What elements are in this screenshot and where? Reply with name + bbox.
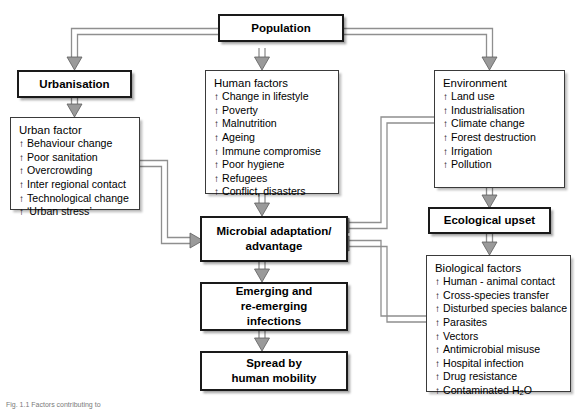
list-item: ↑Behaviour change bbox=[19, 137, 133, 151]
increase-arrow-icon: ↑ bbox=[435, 276, 443, 289]
node-microbial-line2: advantage bbox=[246, 239, 303, 254]
panel-human-factors[interactable]: Human factors ↑Change in lifestyle ↑Pove… bbox=[205, 70, 339, 194]
node-emerging-infections[interactable]: Emerging and re-emerging infections bbox=[200, 282, 348, 331]
increase-arrow-icon: ↑ bbox=[443, 132, 451, 145]
increase-arrow-icon: ↑ bbox=[443, 91, 451, 104]
list-item: ↑Poor sanitation bbox=[19, 151, 133, 165]
list-item: ↑Overcrowding bbox=[19, 164, 133, 178]
list-item: ↑Contaminated H2O bbox=[435, 384, 564, 398]
panel-environment-list: ↑Land use ↑Industrialisation ↑Climate ch… bbox=[443, 90, 558, 171]
increase-arrow-icon: ↑ bbox=[214, 118, 222, 131]
edge-population-to-urbanisation bbox=[67, 29, 218, 71]
increase-arrow-icon: ↑ bbox=[435, 303, 443, 316]
list-item: ↑Malnutrition bbox=[214, 117, 332, 131]
node-emerging-line2: re-emerging bbox=[241, 299, 307, 314]
increase-arrow-icon: ↑ bbox=[214, 91, 222, 104]
list-item: ↑Inter regional contact bbox=[19, 178, 133, 192]
increase-arrow-icon: ↑ bbox=[435, 385, 443, 398]
list-item: ↑Land use bbox=[443, 90, 558, 104]
panel-urban-factor[interactable]: Urban factor ↑Behaviour change ↑Poor san… bbox=[10, 117, 140, 210]
node-population-label: Population bbox=[251, 21, 310, 36]
edge-environment-to-ecological-upset bbox=[482, 188, 497, 208]
increase-arrow-icon: ↑ bbox=[214, 186, 222, 199]
edge-biological-factors-to-microbial bbox=[336, 236, 426, 322]
list-item: ↑Conflict, disasters bbox=[214, 185, 332, 199]
increase-arrow-icon: ↑ bbox=[214, 173, 222, 186]
increase-arrow-icon: ↑ bbox=[435, 371, 443, 384]
node-spread-by-human-mobility[interactable]: Spread by human mobility bbox=[200, 351, 348, 391]
list-item: ↑Cross-species transfer bbox=[435, 289, 564, 303]
node-urbanisation-label: Urbanisation bbox=[39, 77, 109, 92]
edge-urbanisation-to-urban-factor bbox=[67, 98, 82, 117]
panel-biological-factors-title: Biological factors bbox=[435, 261, 564, 275]
panel-human-factors-title: Human factors bbox=[214, 76, 332, 90]
list-item: ↑Hospital infection bbox=[435, 357, 564, 371]
increase-arrow-icon: ↑ bbox=[443, 159, 451, 172]
edge-microbial-to-emerging bbox=[255, 262, 270, 282]
increase-arrow-icon: ↑ bbox=[19, 193, 27, 206]
node-spread-line1: Spread by bbox=[246, 356, 302, 371]
panel-urban-factor-list: ↑Behaviour change ↑Poor sanitation ↑Over… bbox=[19, 137, 133, 218]
contaminated-water-label: Contaminated H2O bbox=[443, 384, 532, 396]
list-item: ↑Poverty bbox=[214, 104, 332, 118]
list-item: ↑Refugees bbox=[214, 172, 332, 186]
list-item: ↑Pollution bbox=[443, 158, 558, 172]
list-item: ↑Industrialisation bbox=[443, 104, 558, 118]
increase-arrow-icon: ↑ bbox=[435, 344, 443, 357]
panel-environment-title: Environment bbox=[443, 76, 558, 90]
increase-arrow-icon: ↑ bbox=[214, 132, 222, 145]
increase-arrow-icon: ↑ bbox=[443, 146, 451, 159]
list-item: ↑Immune compromise bbox=[214, 145, 332, 159]
increase-arrow-icon: ↑ bbox=[214, 146, 222, 159]
node-ecological-upset-label: Ecological upset bbox=[444, 213, 535, 228]
list-item: ↑Poor hygiene bbox=[214, 158, 332, 172]
flowchart-diagram: Population Urbanisation Ecological upset… bbox=[0, 0, 575, 411]
node-emerging-line3: infections bbox=[247, 314, 301, 329]
list-item: ↑Irrigation bbox=[443, 145, 558, 159]
edge-ecological-upset-to-biological-factors bbox=[482, 234, 497, 255]
list-item: ↑Climate change bbox=[443, 117, 558, 131]
panel-urban-factor-title: Urban factor bbox=[19, 123, 133, 137]
increase-arrow-icon: ↑ bbox=[214, 159, 222, 172]
edge-urban-factor-to-microbial bbox=[140, 161, 203, 249]
node-ecological-upset[interactable]: Ecological upset bbox=[428, 207, 551, 234]
list-item: ↑‘Urban stress’ bbox=[19, 205, 133, 219]
list-item: ↑Change in lifestyle bbox=[214, 90, 332, 104]
list-item: ↑Vectors bbox=[435, 330, 564, 344]
list-item: ↑Forest destruction bbox=[443, 131, 558, 145]
increase-arrow-icon: ↑ bbox=[19, 165, 27, 178]
list-item: ↑Technological change bbox=[19, 192, 133, 206]
list-item: ↑Parasites bbox=[435, 316, 564, 330]
edge-environment-to-microbial bbox=[336, 117, 434, 233]
edge-population-to-environment bbox=[344, 29, 497, 71]
panel-environment[interactable]: Environment ↑Land use ↑Industrialisation… bbox=[434, 70, 565, 188]
increase-arrow-icon: ↑ bbox=[435, 290, 443, 303]
panel-biological-factors-list: ↑Human - animal contact ↑Cross-species t… bbox=[435, 275, 564, 397]
increase-arrow-icon: ↑ bbox=[19, 206, 27, 219]
increase-arrow-icon: ↑ bbox=[19, 138, 27, 151]
node-spread-line2: human mobility bbox=[232, 371, 317, 386]
panel-human-factors-list: ↑Change in lifestyle ↑Poverty ↑Malnutrit… bbox=[214, 90, 332, 198]
list-item: ↑Ageing bbox=[214, 131, 332, 145]
list-item: ↑Drug resistance bbox=[435, 370, 564, 384]
increase-arrow-icon: ↑ bbox=[19, 179, 27, 192]
list-item: ↑Human - animal contact bbox=[435, 275, 564, 289]
node-microbial-adaptation[interactable]: Microbial adaptation/ advantage bbox=[200, 216, 348, 262]
increase-arrow-icon: ↑ bbox=[435, 331, 443, 344]
node-urbanisation[interactable]: Urbanisation bbox=[17, 70, 132, 98]
figure-caption: Fig. 1.1 Factors contributing to bbox=[6, 401, 101, 408]
node-population[interactable]: Population bbox=[218, 14, 344, 42]
list-item: ↑Antimicrobial misuse bbox=[435, 343, 564, 357]
increase-arrow-icon: ↑ bbox=[443, 105, 451, 118]
edge-population-to-human-factors bbox=[255, 48, 270, 70]
increase-arrow-icon: ↑ bbox=[19, 152, 27, 165]
increase-arrow-icon: ↑ bbox=[443, 118, 451, 131]
increase-arrow-icon: ↑ bbox=[435, 317, 443, 330]
node-emerging-line1: Emerging and bbox=[236, 284, 313, 299]
panel-biological-factors[interactable]: Biological factors ↑Human - animal conta… bbox=[426, 255, 571, 392]
increase-arrow-icon: ↑ bbox=[435, 358, 443, 371]
increase-arrow-icon: ↑ bbox=[214, 105, 222, 118]
node-microbial-line1: Microbial adaptation/ bbox=[216, 224, 331, 239]
list-item: ↑Disturbed species balance bbox=[435, 302, 564, 316]
edge-emerging-to-spread bbox=[255, 331, 270, 351]
